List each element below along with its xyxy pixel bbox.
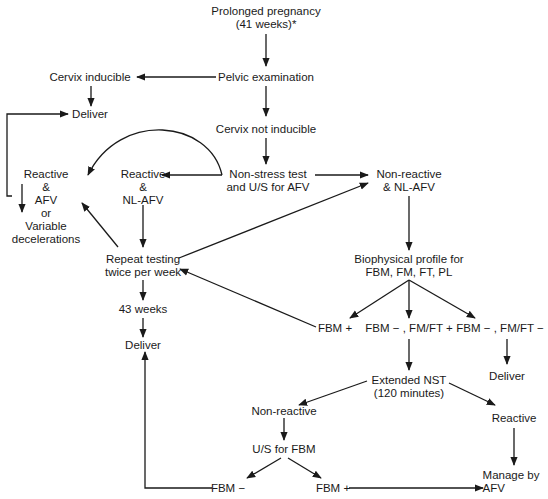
arrow-us-fbm-to-fbm-minus: [247, 458, 281, 478]
node-pelvic-examination: Pelvic examination: [218, 71, 314, 84]
node-biophysical-profile: Biophysical profile for FBM, FM, FT, PL: [354, 253, 463, 279]
node-deliver-top: Deliver: [72, 108, 108, 121]
arrow-biophysical-to-fbm-plus: [350, 280, 409, 318]
arrow-extended-nst-to-reactive: [449, 383, 495, 405]
node-nonreactive-nl-afv: Non-reactive & NL-AFV: [376, 168, 441, 194]
node-repeat-testing: Repeat testing twice per week: [105, 253, 181, 279]
node-nonreactive: Non-reactive: [251, 405, 316, 418]
node-fbm-plus-bottom: FBM +: [316, 482, 350, 495]
flowchart: Prolonged pregnancy (41 weeks)* Pelvic e…: [0, 0, 548, 499]
node-fbm-minus-bottom: FBM −: [211, 482, 245, 495]
node-cervix-inducible: Cervix inducible: [49, 71, 130, 84]
arrow-us-fbm-to-fbm-plus: [288, 458, 321, 478]
arrow-extended-nst-to-nonreactive: [299, 381, 367, 405]
node-deliver-right: Deliver: [489, 370, 525, 383]
node-extended-nst: Extended NST (120 minutes): [372, 374, 447, 400]
node-non-stress-test: Non-stress test and U/S for AFV: [226, 168, 309, 194]
node-reactive-afv: Reactive & AFV or Variable decelerations: [12, 168, 80, 246]
arrow-fbm-plus-to-repeat: [180, 269, 316, 327]
node-reactive-nl-afv: Reactive & NL-AFV: [121, 168, 166, 207]
node-us-for-fbm: U/S for FBM: [252, 443, 315, 456]
node-manage-by-afv: Manage by AFV: [483, 469, 540, 495]
node-reactive: Reactive: [492, 412, 537, 425]
node-prolonged-pregnancy: Prolonged pregnancy (41 weeks)*: [211, 5, 320, 31]
node-fbm-plus: FBM +: [318, 322, 352, 335]
node-fbm-minus-fmft-plus: FBM − , FM/FT +: [365, 322, 452, 335]
node-deliver-mid: Deliver: [125, 339, 161, 352]
arrow-biophysical-to-fbm-minus-fmft-minus: [409, 280, 475, 318]
arrow-repeat-to-reactive-afv: [82, 203, 118, 247]
arrow-fbm-minus-to-deliver: [145, 352, 212, 488]
arrow-repeat-to-nonreactive-nlafv: [179, 183, 368, 258]
node-cervix-not-inducible: Cervix not inducible: [216, 123, 316, 136]
node-fbm-minus-fmft-minus: FBM − , FM/FT −: [456, 322, 543, 335]
node-43-weeks: 43 weeks: [119, 303, 168, 316]
